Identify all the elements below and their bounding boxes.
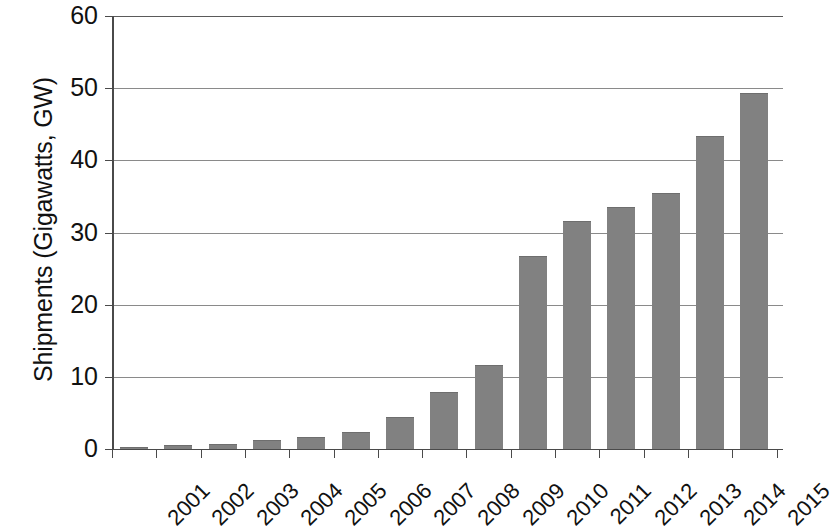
x-axis-tick-label: 2003 — [251, 478, 304, 530]
x-axis-tick-mark — [422, 449, 423, 458]
gridline — [112, 377, 783, 378]
bar — [120, 447, 148, 449]
x-axis-tick-label: 2005 — [340, 478, 393, 530]
bar — [607, 207, 635, 449]
gridline — [112, 160, 783, 161]
x-axis-tick-mark — [378, 449, 379, 458]
gridline — [112, 305, 783, 306]
x-axis-tick-mark — [466, 449, 467, 458]
x-axis-tick-mark — [688, 449, 689, 458]
gridline — [112, 449, 783, 450]
y-axis-tick-label: 40 — [38, 147, 98, 172]
y-axis-tick-label: 60 — [38, 3, 98, 28]
gridline — [112, 88, 783, 89]
plot-area: 2001200220032004200520062007200820092010… — [112, 16, 783, 449]
bar — [164, 445, 192, 449]
y-axis-tick-mark — [105, 233, 112, 234]
x-axis-tick-label: 2009 — [517, 478, 570, 530]
y-axis-tick-mark — [105, 160, 112, 161]
x-axis-tick-label: 2002 — [207, 478, 260, 530]
x-axis-tick-mark — [732, 449, 733, 458]
x-axis-tick-mark — [644, 449, 645, 458]
y-axis-tick-label: 50 — [38, 75, 98, 100]
bar — [475, 365, 503, 449]
y-axis-tick-label: 10 — [38, 364, 98, 389]
x-axis-tick-label: 2007 — [428, 478, 481, 530]
x-axis-tick-mark — [112, 449, 113, 458]
x-axis-tick-label: 2013 — [694, 478, 747, 530]
x-axis-tick-label: 2001 — [162, 478, 215, 530]
bar — [652, 193, 680, 449]
y-axis-tick-label: 30 — [38, 220, 98, 245]
x-axis-tick-label: 2012 — [650, 478, 703, 530]
y-axis-tick-label: 20 — [38, 292, 98, 317]
x-axis-tick-mark — [555, 449, 556, 458]
bar — [297, 437, 325, 449]
bar — [740, 93, 768, 450]
x-axis-tick-label: 2004 — [295, 478, 348, 530]
x-axis-tick-label: 2008 — [473, 478, 526, 530]
x-axis-tick-mark — [245, 449, 246, 458]
y-axis-tick-mark — [105, 16, 112, 17]
x-axis-tick-label: 2015 — [783, 478, 834, 530]
bar — [696, 136, 724, 449]
x-axis-tick-label: 2010 — [561, 478, 614, 530]
x-axis-tick-label: 2006 — [384, 478, 437, 530]
x-axis-tick-mark — [201, 449, 202, 458]
bar — [386, 417, 414, 449]
x-axis-tick-label: 2014 — [738, 478, 791, 530]
x-axis-tick-mark — [334, 449, 335, 458]
x-axis-tick-label: 2011 — [605, 478, 657, 530]
x-axis-tick-mark — [777, 449, 778, 458]
gridline — [112, 233, 783, 234]
gridline — [112, 16, 783, 17]
y-axis-tick-label: 0 — [38, 436, 98, 461]
bar — [563, 221, 591, 449]
y-axis-tick-mark — [105, 88, 112, 89]
x-axis-tick-mark — [156, 449, 157, 458]
y-axis-line — [112, 16, 114, 450]
bar — [342, 432, 370, 449]
x-axis-tick-mark — [289, 449, 290, 458]
y-axis-tick-mark — [105, 449, 112, 450]
y-axis-tick-mark — [105, 305, 112, 306]
x-axis-tick-mark — [511, 449, 512, 458]
bar — [519, 256, 547, 449]
y-axis-tick-mark — [105, 377, 112, 378]
bar — [253, 440, 281, 449]
bar — [209, 444, 237, 449]
bar — [430, 392, 458, 449]
x-axis-tick-mark — [599, 449, 600, 458]
